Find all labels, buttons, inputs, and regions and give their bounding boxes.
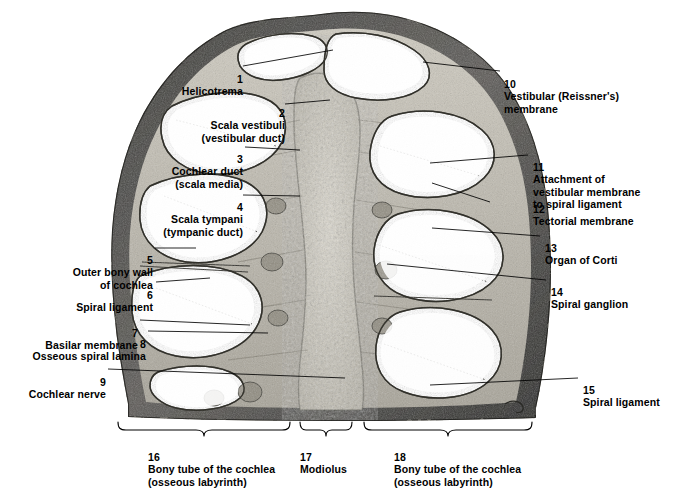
label-13-text: Organ of Corti (545, 254, 618, 266)
label-3-cochlear-duct: 3 Cochlear duct (scala media) (10, 140, 243, 190)
label-4-scala-tympani: 4 Scala tympani (tympanic duct) (10, 188, 243, 238)
label-9-num: 9 (100, 376, 106, 388)
label-18-bony-tube-right: 18 Bony tube of the cochlea (osseous lab… (394, 438, 594, 488)
label-13-num: 13 (545, 242, 557, 254)
label-15-num: 15 (583, 384, 595, 396)
label-8-num: 8 (140, 338, 146, 350)
label-17-num: 17 (300, 451, 312, 463)
bottom-braces (118, 422, 532, 436)
label-16-text: Bony tube of the cochlea (osseous labyri… (148, 463, 275, 488)
label-8-osseous-spiral-lamina: 8 Osseous spiral lamina (4, 325, 146, 363)
label-9-cochlear-nerve: 9 Cochlear nerve (4, 363, 106, 401)
label-3-text: Cochlear duct (scala media) (172, 165, 243, 190)
label-18-text: Bony tube of the cochlea (osseous labyri… (394, 463, 521, 488)
label-2-num: 2 (279, 107, 285, 119)
label-4-text: Scala tympani (tympanic duct) (163, 213, 243, 238)
label-6-num: 6 (147, 289, 153, 301)
label-12-tectorial-membrane: 12 Tectorial membrane (533, 190, 674, 228)
label-1-num: 1 (237, 73, 243, 85)
label-6-spiral-ligament: 6 Spiral ligament (10, 276, 153, 314)
label-12-num: 12 (533, 203, 545, 215)
label-12-text: Tectorial membrane (533, 215, 634, 227)
label-17-text: Modiolus (300, 463, 347, 475)
label-13-organ-of-corti: 13 Organ of Corti (545, 229, 674, 267)
label-9-text: Cochlear nerve (29, 388, 106, 400)
label-6-text: Spiral ligament (76, 301, 153, 313)
label-15-spiral-ligament: 15 Spiral ligament (583, 371, 674, 409)
label-11-num: 11 (533, 161, 544, 173)
label-3-num: 3 (237, 153, 243, 165)
label-15-text: Spiral ligament (583, 396, 660, 408)
label-1-helicotrema: 1 Helicotrema (10, 60, 243, 98)
label-4-num: 4 (237, 201, 243, 213)
label-14-text: Spiral ganglion (551, 298, 628, 310)
label-2-scala-vestibuli: 2 Scala vestibuli (vestibular duct) (10, 94, 285, 144)
label-10-vestibular-membrane: 10 Vestibular (Reissner's) membrane (504, 65, 674, 115)
label-14-spiral-ganglion: 14 Spiral ganglion (551, 273, 674, 311)
label-16-num: 16 (148, 451, 160, 463)
label-5-num: 5 (147, 254, 153, 266)
label-10-text: Vestibular (Reissner's) membrane (504, 90, 619, 115)
label-14-num: 14 (551, 286, 563, 298)
label-10-num: 10 (504, 78, 516, 90)
label-8-text: Osseous spiral lamina (32, 350, 146, 362)
label-18-num: 18 (394, 451, 406, 463)
